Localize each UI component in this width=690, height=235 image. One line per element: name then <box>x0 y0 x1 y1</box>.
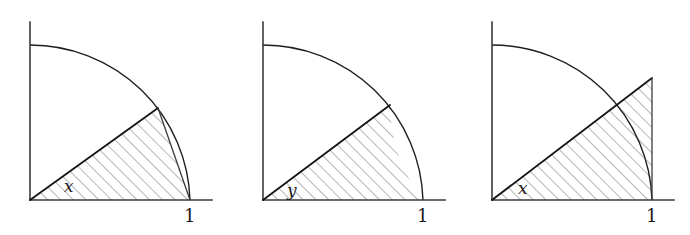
circular-sector-panel: y 1 <box>230 0 460 235</box>
angle-label: x <box>64 176 74 196</box>
circumscribed-triangle-panel: x 1 <box>460 0 690 235</box>
unit-label: 1 <box>646 205 657 226</box>
angle-label: x <box>518 178 528 198</box>
unit-label: 1 <box>417 205 428 226</box>
figure-root: x 1 y 1 <box>0 0 690 235</box>
unit-label: 1 <box>184 205 195 226</box>
inscribed-triangle-panel: x 1 <box>0 0 230 235</box>
angle-label: y <box>286 180 297 200</box>
